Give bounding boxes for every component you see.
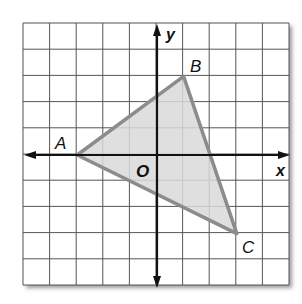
x-axis-label: x: [275, 162, 286, 179]
vertex-a-label: A: [54, 134, 66, 153]
y-axis-label: y: [165, 26, 176, 43]
vertex-c-label: C: [242, 238, 255, 257]
vertex-b-label: B: [190, 57, 201, 76]
origin-label: O: [136, 162, 149, 181]
coordinate-plane: y x O A B C: [0, 0, 302, 304]
